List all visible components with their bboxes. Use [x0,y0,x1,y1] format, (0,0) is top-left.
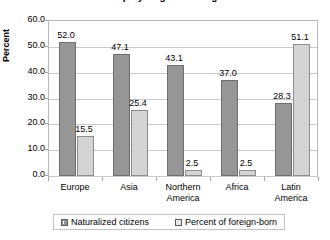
legend-swatch [61,219,68,226]
x-tick-mark [318,177,319,181]
x-tick-mark [102,177,103,181]
y-tick-label: 0.0 [5,169,45,179]
bar [185,170,202,176]
bar [59,42,76,176]
category-label: LatinAmerica [257,182,325,204]
y-tick-label: 10.0 [5,143,45,153]
bar-chart: Citizenship by Region of Origin: 2008 Pe… [0,0,330,240]
y-tick-label: 30.0 [5,92,45,102]
bar [77,136,94,176]
bar-value-label: 28.3 [265,91,299,101]
x-tick-mark [156,177,157,181]
legend-swatch [175,219,182,226]
category-label-line: Latin [257,182,325,193]
bar [275,103,292,176]
chart-title: Citizenship by Region of Origin: 2008 [0,0,330,2]
y-tick-label: 50.0 [5,40,45,50]
bar-value-label: 51.1 [283,32,317,42]
y-tick-label: 60.0 [5,14,45,24]
bar-value-label: 37.0 [211,68,245,78]
gridline [49,176,317,177]
bar [113,54,130,176]
legend-entry: Percent of foreign-born [175,217,277,227]
y-tick-label: 20.0 [5,117,45,127]
x-tick-mark [210,177,211,181]
category-label-line: America [149,193,217,204]
bar-value-label: 47.1 [103,42,137,52]
legend-label: Naturalized citizens [71,217,149,227]
legend-entry: Naturalized citizens [61,217,149,227]
chart-legend: Naturalized citizensPercent of foreign-b… [53,214,285,230]
legend-label: Percent of foreign-born [185,217,277,227]
bar-value-label: 2.5 [229,158,263,168]
bar [239,170,256,176]
x-tick-mark [264,177,265,181]
bar-value-label: 15.5 [67,124,101,134]
bar [293,44,310,176]
x-tick-mark [48,177,49,181]
y-tick-label: 40.0 [5,66,45,76]
bar-value-label: 25.4 [121,98,155,108]
bar-value-label: 52.0 [49,30,83,40]
category-label-line: America [257,193,325,204]
bar-value-label: 2.5 [175,158,209,168]
bar-value-label: 43.1 [157,53,191,63]
bar [131,110,148,176]
gridline [49,47,317,48]
